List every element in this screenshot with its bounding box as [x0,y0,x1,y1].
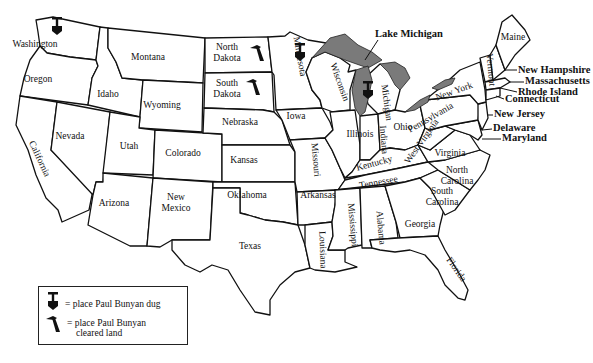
state-label-south: South [431,186,453,196]
state-label-north: North [216,42,238,52]
label-connecticut: Connecticut [505,93,560,104]
state-label-north: North [446,165,468,175]
state-arizona [88,173,153,246]
state-label-texas: Texas [239,241,261,251]
shovel-icon [45,291,61,311]
state-label-colorado: Colorado [165,148,201,158]
state-label-washington: Washington [12,39,57,49]
legend-dug-label: = place Paul Bunyan dug [65,299,161,309]
label-new-hampshire: New Hampshire [518,64,591,75]
state-label-mexico: Mexico [161,203,190,213]
label-massachusetts: Massachusetts [525,75,590,86]
legend: = place Paul Bunyan dug = place Paul Bun… [38,286,188,345]
state-label-oregon: Oregon [24,74,53,84]
state-label-maine: Maine [501,32,525,42]
state-label-nebraska: Nebraska [222,117,259,127]
state-label-illinois: Illinois [347,129,374,139]
state-label-wyoming: Wyoming [143,100,181,110]
state-connecticut [486,88,500,100]
state-label-arkansas: Arkansas [300,190,336,200]
state-label-carolina: Carolina [426,197,459,207]
state-label-dakota: Dakota [213,89,241,99]
state-label-oklahoma: Oklahoma [227,190,267,200]
legend-cleared-line1: = place Paul Bunyan [67,318,146,328]
state-label-louisiana: Louisiana [317,231,328,270]
label-new-jersey: New Jersey [494,108,546,119]
state-label-georgia: Georgia [405,219,436,229]
state-label-montana: Montana [131,52,166,62]
state-label-iowa: Iowa [287,111,307,121]
state-label-new: New [167,192,185,202]
state-label-kansas: Kansas [230,155,258,165]
label-lake-michigan: Lake Michigan [375,28,443,39]
axe-icon [45,315,63,333]
label-maryland: Maryland [502,132,547,143]
state-label-carolina: Carolina [441,176,474,186]
state-label-dakota: Dakota [213,53,241,63]
legend-cleared-line2: cleared land [67,328,122,338]
state-label-south: South [216,78,238,88]
state-label-idaho: Idaho [97,89,119,99]
state-label-utah: Utah [120,141,139,151]
legend-cleared-label: = place Paul Bunyan cleared land [67,318,146,338]
state-label-arizona: Arizona [99,198,130,208]
state-label-nevada: Nevada [55,131,85,141]
legend-row-dug: = place Paul Bunyan dug [45,291,161,311]
state-label-virginia: Virginia [435,148,467,158]
legend-row-cleared: = place Paul Bunyan cleared land [45,315,146,338]
